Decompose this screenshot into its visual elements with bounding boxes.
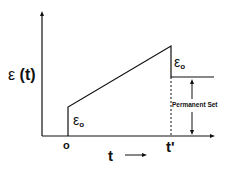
creep-recovery-diagram: ε (t) εo εo o t t' Permanent Set [0,0,238,173]
release-time-label: t' [166,139,175,154]
epsilon-symbol: ε [8,66,15,83]
time-arg: (t) [20,66,36,83]
subscript: o [79,120,84,129]
permanent-set-label: Permanent Set [172,101,218,110]
x-label-arrow [125,153,147,157]
x-axis-label: t [108,148,113,163]
instant-strain-label-unloading: εo [174,55,185,71]
subscript: o [180,62,185,71]
origin-label: o [63,140,70,151]
diagram-graphics [0,0,238,173]
y-axis [40,11,44,136]
y-axis-label: ε (t) [8,67,36,83]
instant-strain-label-loading: εo [73,113,84,129]
